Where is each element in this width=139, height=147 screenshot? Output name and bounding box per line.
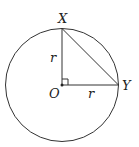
label-x: X	[57, 11, 68, 26]
center-point	[61, 84, 64, 87]
label-o: O	[49, 86, 60, 101]
chord-xy	[62, 29, 119, 86]
circle-diagram: X Y O r r	[0, 0, 139, 147]
label-y: Y	[122, 78, 132, 93]
label-r-vertical: r	[50, 50, 57, 65]
label-r-horizontal: r	[88, 86, 95, 101]
